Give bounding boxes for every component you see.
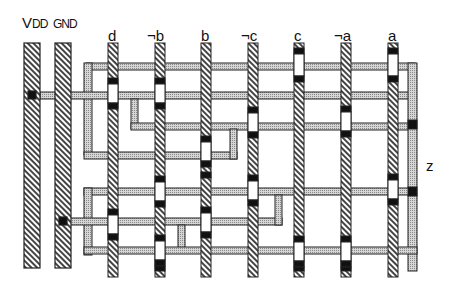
vdd-label-sub: DD (32, 17, 47, 31)
input-label-not-c: ¬c (241, 28, 257, 43)
metal-rails (40, 63, 417, 271)
column-a (388, 43, 398, 277)
bottom-contact-not-b (155, 266, 165, 271)
gnd-bar (55, 43, 71, 268)
input-label-c: c (294, 28, 302, 43)
column-b (201, 43, 211, 277)
input-label-not-a: ¬a (334, 28, 351, 43)
input-label-b: b (201, 28, 209, 43)
output-label-z: z (426, 158, 434, 173)
column-not-c (248, 43, 258, 277)
column-c (294, 43, 304, 277)
rail-vdd-tap (40, 92, 410, 99)
output-z-vertical (408, 63, 417, 271)
power-bars (24, 43, 71, 268)
vdd-label: VDD (22, 15, 47, 30)
rail-top-4-right-vertical (230, 129, 237, 159)
vdd-bar (24, 43, 40, 268)
rail-top-left-vertical (84, 63, 92, 155)
input-label-a: a (388, 28, 396, 43)
gnd-label: GND (53, 18, 77, 30)
column-not-b (155, 43, 165, 277)
bottom-contact-c (294, 267, 304, 271)
vdd-contact (28, 91, 36, 99)
gnd-contact (59, 217, 67, 225)
z-contact-top (408, 120, 417, 129)
rail-top-3 (131, 123, 415, 130)
column-not-a (341, 43, 351, 277)
bottom-contact-not-a (341, 267, 351, 271)
vdd-label-main: V (22, 14, 32, 31)
input-label-not-b: ¬b (147, 28, 164, 43)
z-contact-bottom (408, 187, 417, 196)
rail-bot-inner-stub (178, 225, 185, 250)
input-columns (108, 43, 417, 277)
column-d (108, 43, 118, 277)
input-label-d: d (108, 28, 116, 43)
rail-bot-2-right-vertical (275, 195, 282, 225)
